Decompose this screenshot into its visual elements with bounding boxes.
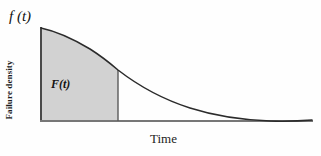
y-axis-label-text: Failure density — [4, 60, 14, 119]
failure-density-figure: f (t) F(t) Failure density Time — [0, 0, 321, 156]
shaded-area-Ft — [41, 28, 118, 121]
x-axis-label: Time — [150, 131, 177, 147]
area-label-Ft: F(t) — [51, 77, 70, 92]
curve-label-ft: f (t) — [9, 8, 31, 25]
y-axis-label: Failure density — [0, 46, 18, 134]
